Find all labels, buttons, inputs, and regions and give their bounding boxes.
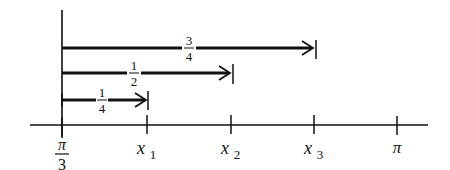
tick-label-pi-numerator: π	[58, 136, 67, 153]
fraction-numerator: 1	[99, 85, 106, 100]
tick-label-pi: π	[393, 138, 402, 157]
tick-label-x3: x 3	[303, 138, 323, 162]
tick-label-x3-subscript: 3	[317, 147, 324, 162]
tick-label-x3-base: x	[303, 138, 312, 158]
tick-label-x1-subscript: 1	[150, 147, 157, 162]
tick-label-pi-over-3: π 3	[55, 136, 69, 170]
tick-label-x2-subscript: 2	[234, 147, 241, 162]
arrow-one-quarter: 1 4	[62, 85, 148, 116]
fraction-denominator: 2	[131, 74, 138, 89]
tick-label-x1-base: x	[136, 138, 145, 158]
number-line-diagram: π 3 x 1 x 2 x 3 π 3 4 1 2	[0, 0, 450, 170]
tick-label-x2-base: x	[220, 138, 229, 158]
fraction-denominator: 4	[99, 101, 106, 116]
fraction-numerator: 1	[131, 58, 138, 73]
arrow-three-quarters: 3 4	[62, 33, 316, 64]
tick-label-x1: x 1	[136, 138, 156, 162]
arrow-one-half: 1 2	[62, 58, 233, 89]
fraction-denominator: 4	[186, 49, 193, 64]
tick-label-3-denominator: 3	[58, 156, 66, 170]
tick-label-x2: x 2	[220, 138, 240, 162]
fraction-numerator: 3	[186, 33, 193, 48]
